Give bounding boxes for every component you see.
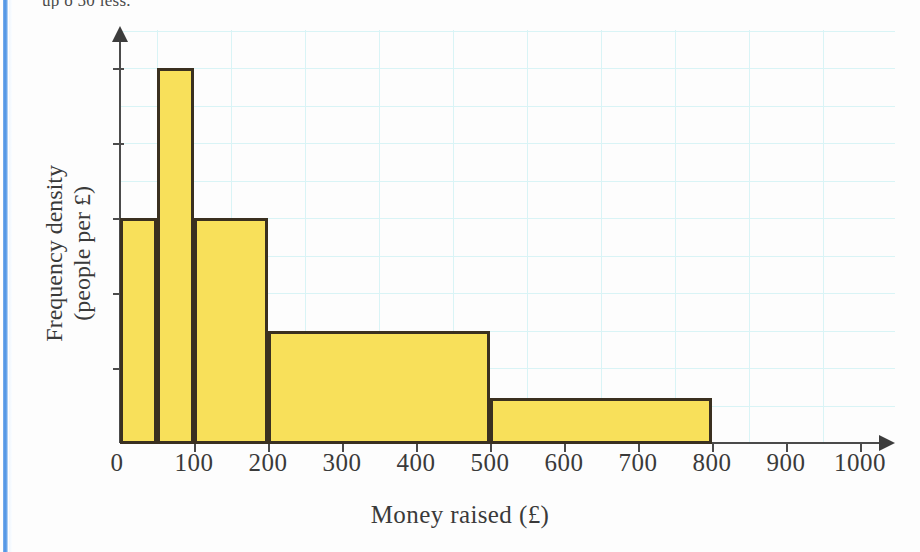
x-axis-tick-label: 500 [471, 449, 510, 477]
x-axis-tick-label: 200 [249, 449, 288, 477]
x-axis-tick-label: 700 [619, 449, 658, 477]
histogram-bar [194, 218, 268, 444]
y-axis-title-line2: (people per £) [68, 123, 96, 383]
y-axis-title: Frequency density (people per £) [40, 123, 97, 383]
histogram-bar [157, 68, 194, 444]
x-axis-tick-label: 900 [767, 449, 806, 477]
histogram-bar [268, 331, 490, 445]
x-axis-tick-label: 400 [397, 449, 436, 477]
x-axis-tick-label: 100 [175, 449, 214, 477]
x-axis-tick-label: 300 [323, 449, 362, 477]
x-axis-title: Money raised (£) [0, 501, 920, 529]
page-background: up o 50 less. 01002003004005006007008009… [0, 0, 920, 552]
x-axis-tick-label: 1000 [834, 449, 886, 477]
y-axis-title-line1: Frequency density [40, 123, 68, 383]
x-axis-tick-label: 0 [111, 449, 124, 477]
x-axis-tick-label: 600 [545, 449, 584, 477]
x-axis-tick-label: 800 [693, 449, 732, 477]
histogram-bar [490, 398, 712, 444]
histogram-bar [120, 218, 157, 444]
histogram-plot: 01002003004005006007008009001000 Frequen… [0, 0, 920, 552]
